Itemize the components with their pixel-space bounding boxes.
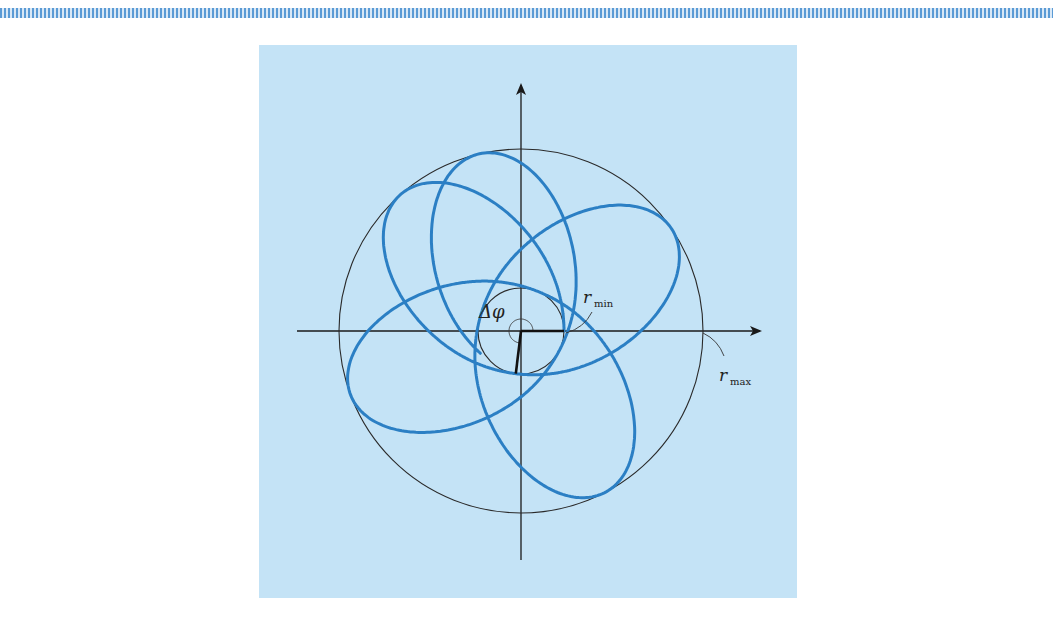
orbit-diagram: Δφ r min r max xyxy=(0,0,1053,633)
delta-phi-radius-line xyxy=(516,331,521,374)
r-min-label: r xyxy=(583,287,592,307)
r-max-label: r xyxy=(719,365,728,385)
rosette-orbit xyxy=(348,153,680,498)
r-max-subscript: max xyxy=(730,376,751,387)
r-max-leader xyxy=(703,333,724,356)
delta-phi-label: Δφ xyxy=(478,301,505,322)
r-min-subscript: min xyxy=(594,298,614,309)
